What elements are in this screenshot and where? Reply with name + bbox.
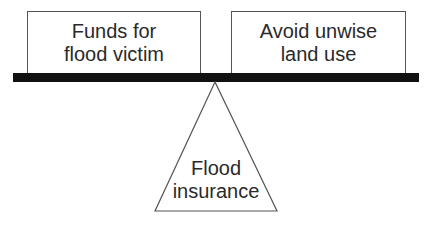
- fulcrum-label-line-2: insurance: [155, 180, 277, 203]
- fulcrum-label-line-1: Flood: [155, 157, 277, 180]
